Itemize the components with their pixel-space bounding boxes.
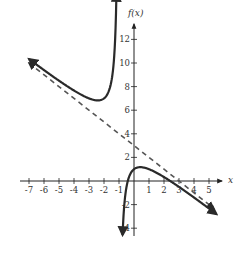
x-tick-label: -7 [25,185,33,195]
x-tick-label: -1 [115,185,123,195]
y-axis: -4-224681012 [119,24,137,236]
curve-branch [123,167,217,235]
x-tick-label: -5 [55,185,63,195]
x-axis: -7-6-5-4-3-2-112345 [20,178,222,195]
y-tick-label: 10 [119,58,130,68]
y-tick-label: 6 [125,105,130,115]
x-tick-label: -6 [40,185,48,195]
x-tick-label: -3 [85,185,93,195]
x-tick-label: 2 [161,185,166,195]
x-tick-label: 5 [206,185,211,195]
y-axis-label: f(x) [127,8,144,18]
curve-branch [29,0,116,100]
x-axis-label: x [228,175,233,185]
x-tick-label: -4 [70,185,78,195]
function-graph: -7-6-5-4-3-2-112345 -4-224681012 x f(x) [0,0,242,254]
y-tick-label: 12 [119,34,130,44]
x-tick-label: -2 [100,185,108,195]
x-tick-label: 1 [146,185,151,195]
y-tick-label: 8 [125,82,130,92]
y-tick-label: 4 [125,129,130,139]
y-tick-label: 2 [125,152,130,162]
